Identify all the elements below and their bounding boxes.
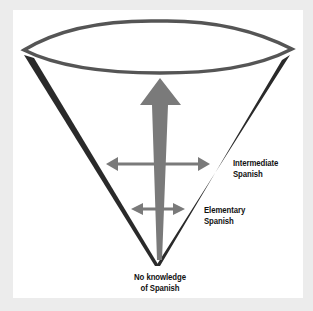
label-no-knowledge-line2: of Spanish <box>119 282 201 293</box>
label-no-knowledge-line1: No knowledge <box>119 271 201 282</box>
cone-left-side <box>24 55 159 266</box>
label-elementary-line1: Elementary <box>204 204 245 215</box>
growth-arrow <box>140 78 181 260</box>
label-no-knowledge: No knowledge of Spanish <box>119 271 201 293</box>
cone-diagram <box>0 0 313 311</box>
label-elementary: Elementary Spanish <box>204 204 245 226</box>
label-intermediate-line2: Spanish <box>233 168 278 179</box>
label-intermediate-line1: Intermediate <box>233 157 278 168</box>
label-intermediate: Intermediate Spanish <box>233 157 278 179</box>
cone-rim <box>24 21 292 73</box>
label-elementary-line2: Spanish <box>204 215 245 226</box>
